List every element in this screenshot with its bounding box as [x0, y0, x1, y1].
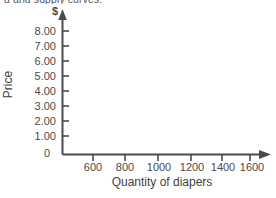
y-tick-label: 4.00	[14, 86, 56, 97]
y-tick-label: 6.00	[14, 56, 56, 67]
x-axis-arrowhead	[259, 150, 271, 159]
y-axis-title: Price	[2, 63, 15, 107]
x-tick-label: 600	[84, 161, 102, 173]
y-tick-label: 5.00	[14, 71, 56, 82]
x-tick-label: 1400	[211, 161, 235, 173]
x-axis-title: Quantity of diapers	[62, 176, 262, 189]
y-tick-label: 1.00	[14, 131, 56, 142]
x-tick-label: 1600	[240, 161, 264, 173]
x-tick-label: 800	[116, 161, 134, 173]
chart-figure: d and supply curves.	[0, 0, 276, 198]
y-axis-arrowhead	[58, 9, 67, 20]
x-axis-tick-labels: 600 800 1000 1200 1400 1600	[0, 161, 276, 175]
figure-caption-bottom	[4, 191, 276, 198]
x-tick-label: 1200	[180, 161, 204, 173]
x-tick-label: 1000	[147, 161, 171, 173]
origin-label: 0	[44, 148, 50, 159]
y-tick-label: 2.00	[14, 116, 56, 127]
y-tick-label: 3.00	[14, 101, 56, 112]
y-axis-ticks	[63, 31, 69, 136]
y-tick-label: 8.00	[14, 26, 56, 37]
y-tick-label: 7.00	[14, 41, 56, 52]
